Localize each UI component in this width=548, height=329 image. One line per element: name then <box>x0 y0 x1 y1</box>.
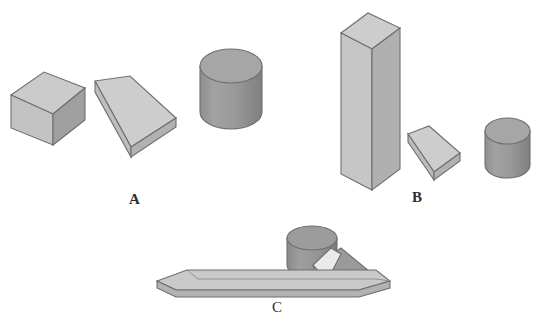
shape-tall-prism-b <box>341 13 400 190</box>
cylinder-a-top-face <box>200 49 262 83</box>
tall-prism-b-right-face <box>372 28 400 190</box>
shape-flat-slab-c <box>157 270 390 297</box>
group-a-shapes <box>11 49 262 157</box>
figure-canvas: A B C <box>0 0 548 329</box>
cylinder-c-top-face <box>287 226 337 250</box>
group-b-shapes <box>341 13 530 190</box>
group-label-b: B <box>412 190 422 205</box>
shape-wedge-a <box>95 76 176 157</box>
shapes-scene <box>0 0 548 329</box>
flat-slab-c-top-face <box>157 270 390 290</box>
group-label-a: A <box>129 192 140 207</box>
small-cylinder-b-top-face <box>485 118 530 144</box>
shape-cube-a <box>11 72 85 145</box>
shape-cylinder-a <box>200 49 262 129</box>
shape-small-wedge-b <box>408 126 460 180</box>
tall-prism-b-left-face <box>341 33 372 190</box>
shape-small-cylinder-b <box>485 118 530 178</box>
group-label-c: C <box>272 300 282 315</box>
group-c-shapes <box>157 226 390 297</box>
